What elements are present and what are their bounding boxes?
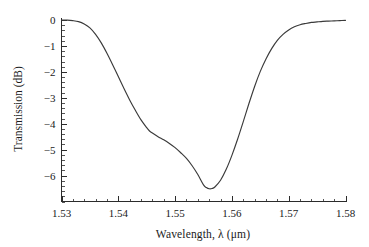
chart-figure: 1.531.541.551.561.571.58 0−1−2−3−4−5−6 W… [0,0,369,247]
y-tick-label: −1 [44,40,56,52]
transmission-spectrum-chart: 1.531.541.551.561.571.58 0−1−2−3−4−5−6 W… [0,0,369,247]
x-tick-label: 1.55 [165,207,185,219]
y-tick-label: −2 [44,66,56,78]
y-axis-tick-labels: 0−1−2−3−4−5−6 [44,14,56,181]
x-tick-label: 1.56 [222,207,242,219]
x-tick-label: 1.58 [336,207,356,219]
data-series-transmission [62,20,346,189]
x-tick-label: 1.54 [109,207,129,219]
x-axis-title: Wavelength, λ (μm) [156,228,250,241]
transmission-curve [62,20,346,189]
y-tick-label: −6 [44,170,56,182]
chart-axes [62,18,346,202]
x-tick-label: 1.53 [52,207,72,219]
x-axis-tick-labels: 1.531.541.551.561.571.58 [52,207,356,219]
y-tick-label: −4 [44,118,56,130]
y-tick-label: −3 [44,92,56,104]
y-tick-label: 0 [50,14,56,26]
y-axis-title: Transmission (dB) [12,66,25,152]
x-tick-label: 1.57 [279,207,299,219]
y-tick-label: −5 [44,144,56,156]
